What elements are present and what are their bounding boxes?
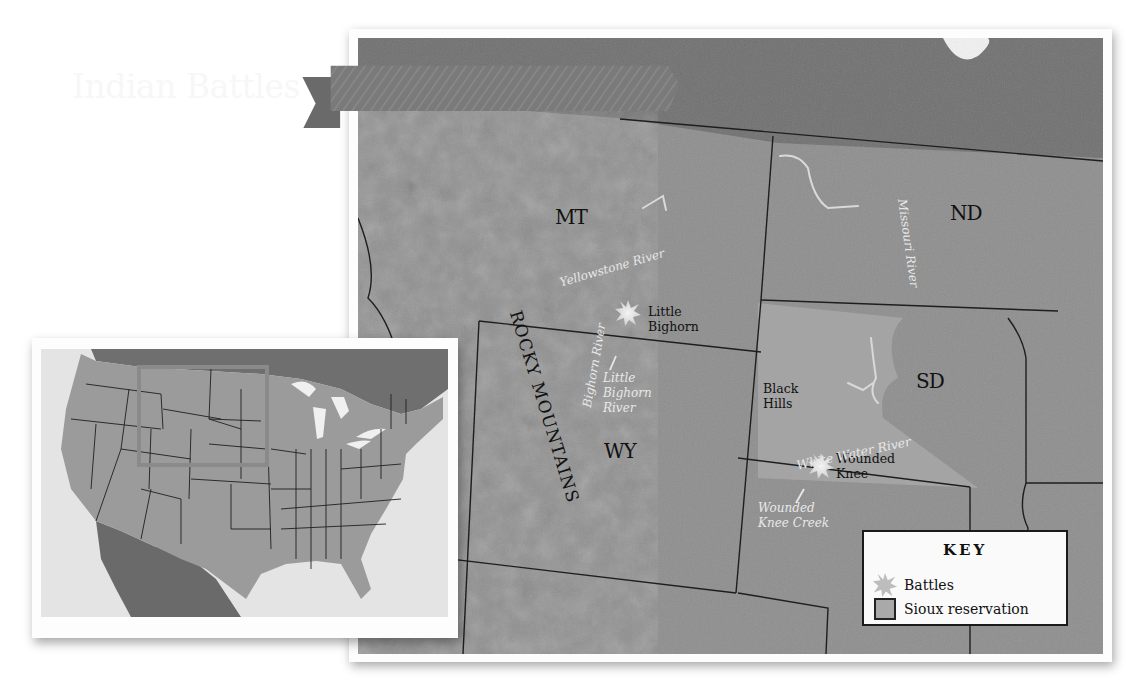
key-row-battles: Battles: [874, 572, 954, 598]
map-title: Indian Battles: [72, 67, 300, 106]
place-label-black-hills: Black Hills: [763, 381, 798, 411]
us-locator-map: [41, 349, 448, 617]
map-key: KEY Battles Sioux reservation: [862, 530, 1068, 626]
place-label-little-bighorn: Little Bighorn: [648, 304, 699, 334]
state-label-nd: ND: [950, 201, 982, 225]
title-banner: [296, 62, 686, 128]
reservation-swatch-icon: [874, 598, 896, 620]
inset-map-card: [32, 338, 458, 638]
battle-star-icon: [872, 572, 898, 598]
river-label-wounded-knee-creek: Wounded Knee Creek: [758, 501, 829, 531]
key-label-battles: Battles: [904, 577, 954, 593]
key-title: KEY: [864, 541, 1066, 559]
state-label-wy: WY: [604, 439, 636, 463]
key-row-reservation: Sioux reservation: [874, 598, 1029, 620]
key-label-reservation: Sioux reservation: [904, 601, 1029, 617]
state-label-mt: MT: [555, 205, 587, 229]
inset-map: [41, 349, 448, 617]
river-label-little-bighorn: Little Bighorn River: [603, 371, 652, 416]
state-label-sd: SD: [916, 369, 944, 393]
